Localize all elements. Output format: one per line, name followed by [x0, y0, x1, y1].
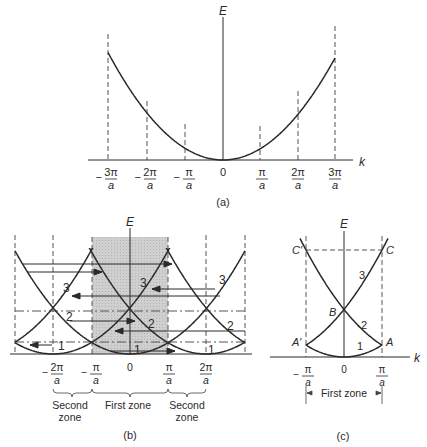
svg-text:1: 1 — [58, 339, 65, 353]
point-c-prime: C′ — [292, 244, 303, 256]
svg-text:−: − — [135, 171, 141, 183]
tick-label: 3πa — [328, 166, 342, 191]
svg-text:a: a — [259, 179, 265, 191]
svg-text:a: a — [203, 374, 209, 386]
band-structure-figure: E k 3πa−2πa−πa−0πa2πa3πa (a) — [0, 0, 427, 447]
svg-text:2: 2 — [66, 310, 73, 324]
svg-text:−: − — [293, 369, 299, 380]
svg-text:−: − — [96, 171, 102, 183]
tick-label: πa — [163, 361, 175, 386]
panel-c: E k C′ C B A′ A 3 2 1 πa−0πa First zone … — [270, 217, 421, 442]
tick-labels-b: 2πa−πa−0πa2πa — [42, 361, 213, 386]
svg-text:π: π — [258, 166, 266, 178]
svg-text:1: 1 — [357, 340, 363, 352]
tick-label: πa — [376, 364, 388, 388]
panel-b: 3 3 3 2 2 2 1 1 1 E 2πa−πa−0πa2πa Second… — [10, 0, 252, 441]
svg-text:−: − — [174, 171, 180, 183]
svg-text:a: a — [295, 179, 301, 191]
tick-label: 0 — [127, 361, 133, 373]
svg-text:π: π — [92, 361, 99, 373]
svg-text:0: 0 — [220, 166, 226, 178]
caption-b: (b) — [123, 429, 136, 441]
svg-text:2π: 2π — [50, 361, 63, 373]
svg-text:2: 2 — [361, 319, 367, 331]
tick-label: πa — [256, 166, 268, 191]
svg-text:3: 3 — [219, 273, 226, 287]
panel-a: E k 3πa−2πa−πa−0πa2πa3πa (a) — [88, 4, 366, 208]
svg-text:π: π — [165, 361, 172, 373]
svg-text:3π: 3π — [104, 166, 118, 178]
svg-text:0: 0 — [341, 364, 347, 375]
svg-text:1: 1 — [208, 343, 215, 357]
svg-text:a: a — [93, 374, 99, 386]
svg-text:3: 3 — [63, 281, 70, 295]
svg-text:3π: 3π — [328, 166, 342, 178]
k-axis-label-a: k — [359, 155, 366, 169]
zone-label-first: First zone — [105, 399, 151, 411]
svg-text:0: 0 — [127, 361, 133, 373]
zone-label-second-right: Second — [169, 399, 205, 411]
svg-text:3: 3 — [140, 276, 147, 290]
svg-text:−: − — [81, 366, 87, 378]
svg-text:2π: 2π — [143, 166, 157, 178]
svg-text:a: a — [166, 374, 172, 386]
svg-text:a: a — [147, 179, 153, 191]
svg-text:2: 2 — [148, 317, 155, 331]
caption-c: (c) — [337, 430, 350, 442]
svg-text:a: a — [332, 179, 338, 191]
tick-label: 2πa− — [135, 166, 158, 191]
svg-text:2π: 2π — [291, 166, 305, 178]
svg-text:π: π — [185, 166, 193, 178]
svg-text:π: π — [305, 364, 312, 375]
k-axis-label-c: k — [414, 351, 421, 365]
tick-labels-a: 3πa−2πa−πa−0πa2πa3πa — [96, 166, 343, 191]
tick-label: 2πa− — [42, 361, 64, 386]
svg-text:−: − — [42, 366, 48, 378]
e-axis-label-b: E — [126, 215, 135, 229]
tick-label: 0 — [220, 166, 226, 178]
svg-text:2π: 2π — [199, 361, 212, 373]
svg-text:a: a — [54, 374, 60, 386]
first-zone-label-c: First zone — [321, 387, 367, 399]
point-a: A — [385, 336, 393, 348]
svg-text:π: π — [379, 364, 386, 375]
band-labels-c: 3 2 1 — [357, 269, 367, 352]
e-axis-label-c: E — [340, 217, 349, 231]
point-c: C — [386, 244, 394, 256]
svg-text:zone: zone — [59, 411, 82, 423]
caption-a: (a) — [216, 196, 229, 208]
zone-braces — [53, 389, 206, 397]
zone-label-second-left: Second — [52, 399, 88, 411]
tick-label: πa− — [81, 361, 102, 386]
e-axis-label-a: E — [219, 4, 228, 18]
svg-text:3: 3 — [359, 269, 365, 281]
free-electron-parabola — [108, 53, 335, 161]
tick-label: 2πa — [291, 166, 305, 191]
zone-boundary-lines-a — [108, 26, 335, 160]
svg-text:1: 1 — [134, 343, 141, 357]
zone-labels: Second zone First zone Second zone — [52, 399, 205, 423]
svg-text:a: a — [108, 179, 114, 191]
svg-text:a: a — [186, 179, 192, 191]
tick-label: 3πa− — [96, 166, 119, 191]
tick-label: πa− — [174, 166, 195, 191]
tick-label: 0 — [341, 364, 347, 375]
svg-text:zone: zone — [176, 411, 199, 423]
svg-text:2: 2 — [227, 319, 234, 333]
point-b: B — [329, 306, 336, 318]
tick-label: πa− — [293, 364, 314, 388]
tick-label: 2πa — [199, 361, 212, 386]
point-a-prime: A′ — [291, 336, 302, 348]
tick-labels-c: πa−0πa — [293, 364, 388, 388]
